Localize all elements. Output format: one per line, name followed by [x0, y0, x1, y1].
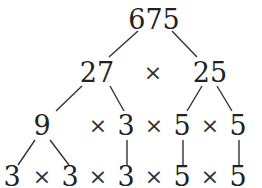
- factor-tree-svg: 675 27 × 25 9 × 3 × 5 × 5 3 × 3 × 3 × 5 …: [0, 0, 262, 188]
- node-9: 9: [33, 110, 50, 141]
- node-5: 5: [229, 110, 246, 141]
- leaf-3: 3: [117, 161, 134, 188]
- times-sign: ×: [201, 164, 219, 188]
- edge-27-9: [56, 86, 82, 111]
- leaf-5: 5: [229, 161, 246, 188]
- edge-27-3: [110, 86, 124, 111]
- leaf-3: 3: [61, 161, 78, 188]
- times-sign: ×: [201, 113, 219, 138]
- node-5: 5: [173, 110, 190, 141]
- node-27: 27: [80, 57, 114, 88]
- factor-tree-diagram: 675 27 × 25 9 × 3 × 5 × 5 3 × 3 × 3 × 5 …: [0, 0, 262, 188]
- leaf-5: 5: [173, 161, 190, 188]
- node-root: 675: [128, 4, 180, 35]
- edge-25-5b: [217, 86, 232, 111]
- leaf-3: 3: [3, 161, 20, 188]
- tree-edges: [18, 31, 239, 165]
- times-sign: ×: [89, 164, 107, 188]
- times-sign: ×: [145, 164, 163, 188]
- node-25: 25: [193, 57, 227, 88]
- times-sign: ×: [144, 60, 162, 85]
- node-3: 3: [117, 110, 134, 141]
- times-sign: ×: [33, 164, 51, 188]
- times-sign: ×: [145, 113, 163, 138]
- edge-25-5a: [187, 86, 202, 111]
- times-sign: ×: [89, 113, 107, 138]
